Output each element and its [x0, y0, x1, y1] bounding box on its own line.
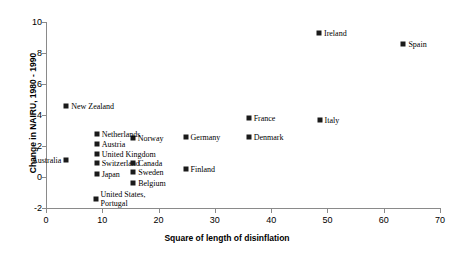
data-point-label: Japan	[102, 169, 120, 178]
x-tick-label: 50	[322, 215, 332, 225]
x-tick-mark	[215, 208, 216, 213]
data-point-marker	[183, 167, 188, 172]
data-point-label: United States, Portugal	[101, 190, 146, 208]
x-tick-label: 40	[266, 215, 276, 225]
y-tick-label: -2	[34, 203, 42, 213]
y-tick-mark	[42, 146, 47, 147]
data-point-marker	[317, 117, 322, 122]
data-point-label: New Zealand	[71, 101, 114, 110]
data-point-label: Australia	[32, 155, 61, 164]
y-tick-mark	[42, 53, 47, 54]
data-point-marker	[316, 30, 321, 35]
y-tick-label: 6	[37, 79, 42, 89]
x-tick-label: 10	[97, 215, 107, 225]
x-tick-mark	[102, 208, 103, 213]
plot-area: -20246810 010203040506070 IrelandSpainNe…	[46, 22, 440, 208]
data-point-label: Germany	[191, 132, 221, 141]
data-point-label: Sweden	[138, 168, 163, 177]
data-point-label: Belgium	[138, 179, 166, 188]
x-axis-title: Square of length of disinflation	[0, 233, 454, 243]
data-point-marker	[183, 134, 188, 139]
data-point-label: Spain	[408, 39, 426, 48]
data-point-marker	[131, 170, 136, 175]
x-tick-label: 60	[379, 215, 389, 225]
x-tick-mark	[440, 208, 441, 213]
y-tick-mark	[42, 84, 47, 85]
data-point-marker	[93, 196, 98, 201]
data-point-label: Canada	[138, 159, 162, 168]
data-point-marker	[246, 116, 251, 121]
data-point-marker	[94, 131, 99, 136]
y-tick-label: 4	[37, 110, 42, 120]
x-tick-label: 30	[210, 215, 220, 225]
data-point-marker	[94, 151, 99, 156]
data-point-marker	[131, 161, 136, 166]
y-tick-label: 10	[32, 17, 42, 27]
x-tick-mark	[46, 208, 47, 213]
data-point-label: Finland	[191, 165, 215, 174]
x-tick-mark	[327, 208, 328, 213]
scatter-chart: Change in NAIRU, 1980 - 1990 Square of l…	[0, 0, 454, 259]
data-point-label: Austria	[102, 140, 126, 149]
y-tick-mark	[42, 177, 47, 178]
x-tick-label: 0	[43, 215, 48, 225]
x-tick-mark	[384, 208, 385, 213]
data-point-marker	[246, 134, 251, 139]
data-point-marker	[401, 41, 406, 46]
data-point-marker	[94, 142, 99, 147]
data-point-label: United Kingdom	[102, 149, 156, 158]
data-point-label: Norway	[138, 134, 164, 143]
x-tick-mark	[159, 208, 160, 213]
y-tick-label: 8	[37, 48, 42, 58]
x-tick-mark	[271, 208, 272, 213]
data-point-label: Italy	[325, 115, 340, 124]
data-point-marker	[94, 161, 99, 166]
x-tick-label: 70	[435, 215, 445, 225]
data-point-marker	[94, 171, 99, 176]
data-point-label: Denmark	[254, 132, 284, 141]
y-tick-mark	[42, 22, 47, 23]
data-point-label: Ireland	[324, 28, 347, 37]
x-axis-line	[46, 208, 440, 209]
y-tick-label: 0	[37, 172, 42, 182]
data-point-marker	[131, 181, 136, 186]
x-tick-label: 20	[154, 215, 164, 225]
y-tick-mark	[42, 115, 47, 116]
data-point-marker	[64, 103, 69, 108]
data-point-label: Netherlands	[102, 129, 141, 138]
data-point-marker	[64, 157, 69, 162]
y-tick-label: 2	[37, 141, 42, 151]
data-point-label: France	[254, 114, 276, 123]
